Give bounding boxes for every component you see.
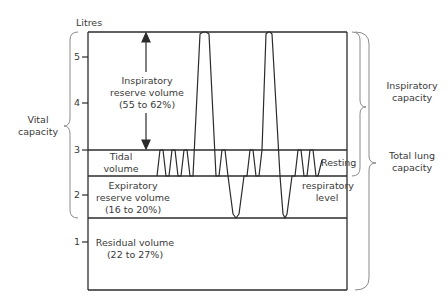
residual-volume-label: Residual volume (22 to 27%) [92,237,178,261]
expiratory-reserve-volume-label: Expiratory reserve volume (16 to 20%) [94,180,172,216]
tidal-volume-label: Tidal volume [96,151,146,175]
tick-label-2: 2 [68,190,80,200]
total-lung-capacity-bracket [355,32,376,290]
inspiratory-capacity-bracket [352,32,366,176]
breathing-waveform [157,32,322,218]
inspiratory-capacity-label: Inspiratory capacity [384,80,440,104]
resting-label: Resting [321,157,356,169]
tick-label-5: 5 [68,52,80,62]
tick-label-3: 3 [68,145,80,155]
lung-volumes-diagram: Litres 5 4 3 2 1 Inspiratory reserve vol… [0,0,448,305]
arrow-down-icon [142,140,150,149]
tick-label-4: 4 [68,98,80,108]
vital-capacity-label: Vital capacity [14,114,62,138]
inspiratory-reserve-volume-label: Inspiratory reserve volume (55 to 62%) [104,75,190,111]
respiratory-level-label: respiratory level [302,180,352,204]
tick-label-1: 1 [68,237,80,247]
total-lung-capacity-label: Total lung capacity [382,150,442,174]
arrow-up-icon [142,33,150,42]
y-axis-label: Litres [76,17,102,29]
y-axis-ticks [82,57,88,242]
